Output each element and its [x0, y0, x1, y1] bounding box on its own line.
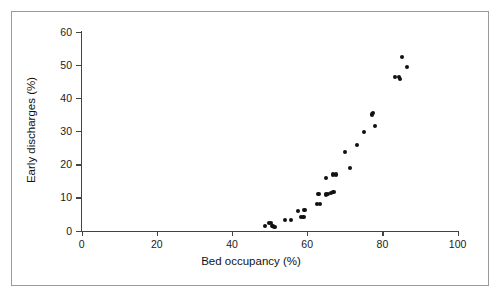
- data-point: [272, 225, 276, 229]
- y-axis-title: Early discharges (%): [25, 50, 37, 210]
- data-point: [296, 209, 300, 213]
- x-tick-label-100: 100: [438, 238, 478, 250]
- x-axis-title: Bed occupancy (%): [0, 255, 502, 267]
- x-tick-0: [82, 231, 83, 236]
- x-tick-label-40: 40: [212, 238, 252, 250]
- data-point: [355, 143, 359, 147]
- data-point: [405, 65, 409, 69]
- y-tick-label-30: 30: [42, 125, 72, 137]
- y-tick-label-50: 50: [42, 59, 72, 71]
- x-tick-label-60: 60: [287, 238, 327, 250]
- data-point: [263, 224, 267, 228]
- x-tick-label-20: 20: [137, 238, 177, 250]
- x-axis-line: [81, 231, 458, 232]
- y-tick-40: [76, 98, 81, 99]
- data-point: [343, 150, 347, 154]
- data-point: [302, 208, 306, 212]
- y-tick-60: [76, 32, 81, 33]
- y-tick-50: [76, 65, 81, 66]
- data-point: [301, 215, 305, 219]
- data-point: [283, 218, 287, 222]
- data-point: [318, 202, 322, 206]
- x-tick-label-80: 80: [362, 238, 402, 250]
- y-tick-30: [76, 131, 81, 132]
- data-point: [398, 77, 402, 81]
- data-point: [371, 111, 375, 115]
- y-tick-0: [76, 231, 81, 232]
- data-point: [362, 130, 366, 134]
- y-tick-label-10: 10: [42, 191, 72, 203]
- x-tick-20: [157, 231, 158, 236]
- data-point: [324, 176, 328, 180]
- y-tick-20: [76, 164, 81, 165]
- y-tick-10: [76, 197, 81, 198]
- y-tick-label-20: 20: [42, 158, 72, 170]
- data-point: [348, 166, 352, 170]
- y-axis-line: [81, 31, 82, 232]
- scatter-plot: 0 10 20 30 40 50 60 0 20 40 60 80 100 Be…: [0, 0, 502, 299]
- x-tick-60: [307, 231, 308, 236]
- x-tick-100: [458, 231, 459, 236]
- data-point: [289, 218, 293, 222]
- data-point: [331, 190, 335, 194]
- data-point: [400, 55, 404, 59]
- data-point: [373, 124, 377, 128]
- x-tick-80: [382, 231, 383, 236]
- x-tick-label-0: 0: [62, 238, 102, 250]
- y-tick-label-0: 0: [42, 225, 72, 237]
- x-tick-40: [232, 231, 233, 236]
- y-tick-label-60: 60: [42, 26, 72, 38]
- y-tick-label-40: 40: [42, 92, 72, 104]
- data-point: [334, 172, 338, 176]
- data-point: [316, 192, 320, 196]
